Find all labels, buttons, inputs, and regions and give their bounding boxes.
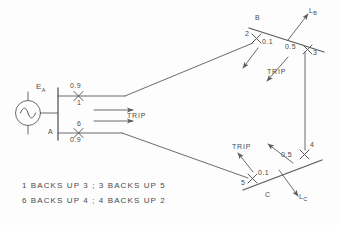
breaker-3-number: 3: [313, 49, 317, 56]
caption-line-1: 1 BACKS UP 3 ; 3 BACKS UP 5: [22, 181, 166, 190]
load-lb-arrow: [288, 14, 308, 40]
breaker-4-number: 4: [310, 141, 314, 148]
breaker-4-symbol: [300, 150, 309, 159]
feeder-a-bottom-diag: [122, 133, 248, 178]
breaker-6-number: 6: [77, 120, 81, 127]
breaker-2-number: 2: [245, 30, 249, 37]
breaker-6-time: 0.9: [70, 136, 81, 143]
load-lb-subscript: B: [313, 10, 317, 16]
breaker-2-symbol: [252, 34, 261, 43]
caption-line-2: 6 BACKS UP 4 ; 4 BACKS UP 2: [22, 196, 166, 205]
trip-arrow-c-1: [238, 153, 253, 172]
figure-canvas: EA A B C LB LC 0.9 1 6 0.9 2 0.1 0.5 3 5…: [0, 0, 339, 225]
load-lc-subscript: C: [303, 196, 307, 202]
breaker-4-time: 0.5: [281, 151, 292, 158]
source-label-subscript: A: [42, 87, 46, 93]
breaker-1-time: 0.9: [70, 82, 81, 89]
trip-label-c: TRIP: [232, 143, 251, 150]
breaker-2-time: 0.1: [262, 38, 273, 45]
load-label-lb: LB: [309, 7, 317, 16]
breaker-1-number: 1: [77, 99, 81, 106]
breaker-5-time: 0.1: [258, 169, 269, 176]
feeder-a-top-diag: [125, 43, 253, 96]
load-lc-arrow: [279, 170, 298, 196]
bus-label-c: C: [265, 191, 270, 198]
trip-label-a: TRIP: [127, 112, 146, 119]
trip-arrow-b-1: [243, 48, 258, 68]
breaker-5-number: 5: [241, 179, 245, 186]
bus-label-a: A: [48, 128, 53, 135]
breaker-3-time: 0.5: [285, 43, 296, 50]
source-label: EA: [36, 82, 46, 93]
breaker-5-symbol: [248, 174, 257, 183]
load-label-lc: LC: [299, 193, 308, 202]
trip-label-b: TRIP: [267, 68, 286, 75]
bus-label-b: B: [255, 14, 260, 21]
one-line-diagram: [0, 0, 339, 225]
